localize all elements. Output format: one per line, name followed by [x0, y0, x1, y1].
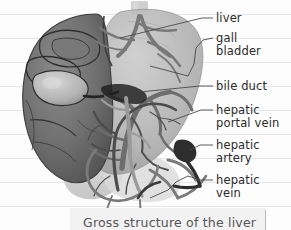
label-hepatic-vein: hepatic vein [216, 174, 260, 200]
label-liver: liver [216, 12, 242, 25]
label-hepatic-artery: hepatic artery [216, 139, 260, 165]
label-hepatic-portal-vein: hepatic portal vein [216, 104, 280, 130]
label-liver-line-0: liver [216, 12, 242, 25]
label-bile-duct-line-0: bile duct [216, 80, 267, 93]
label-hepatic-artery-line-1: artery [216, 152, 260, 165]
label-gall-bladder: gall bladder [216, 32, 261, 58]
label-bile-duct: bile duct [216, 80, 267, 93]
caption-right-border [265, 210, 266, 230]
figure-caption-box: Gross structure of the liver [70, 208, 266, 230]
figure-caption-text: Gross structure of the liver [83, 215, 256, 230]
label-hepatic-portal-vein-line-1: portal vein [216, 117, 280, 130]
figure-page: liver gall bladder bile duct hepatic por… [0, 0, 291, 230]
label-gall-bladder-line-1: bladder [216, 45, 261, 58]
label-hepatic-vein-line-1: vein [216, 187, 260, 200]
